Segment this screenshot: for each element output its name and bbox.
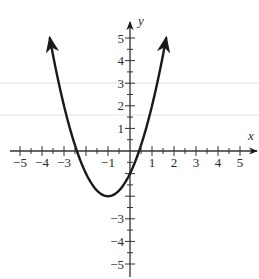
x-axis-label: x <box>247 128 254 143</box>
x-tick-label: −5 <box>13 155 27 170</box>
y-tick-label: 5 <box>118 31 125 46</box>
y-tick-label: −3 <box>110 211 124 226</box>
y-tick-label: −5 <box>110 257 124 272</box>
y-tick-label: 3 <box>118 76 125 91</box>
y-tick-label: −4 <box>110 234 124 249</box>
x-tick-label: 3 <box>193 155 200 170</box>
x-tick-label: −3 <box>57 155 71 170</box>
parabola-curve <box>50 37 167 196</box>
x-tick-label: 2 <box>171 155 178 170</box>
x-tick-label: 1 <box>149 155 156 170</box>
y-axis-label: y <box>136 13 144 28</box>
y-tick-label: 1 <box>118 121 125 136</box>
y-tick-label: 2 <box>118 98 125 113</box>
x-tick-label: 5 <box>237 155 244 170</box>
x-tick-label: 4 <box>215 155 222 170</box>
x-tick-label: −1 <box>101 155 115 170</box>
x-tick-label: −4 <box>35 155 49 170</box>
parabola-graph: −5−4−3−112345−5−4−312345 x y <box>0 0 259 279</box>
y-tick-label: 4 <box>118 53 125 68</box>
